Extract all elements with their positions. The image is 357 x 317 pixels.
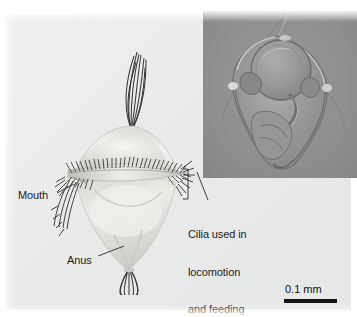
plate-fade-bottom	[0, 305, 357, 317]
anus-leader-line	[98, 246, 124, 256]
leader-lines	[0, 0, 357, 317]
mouth-leader-line	[57, 184, 74, 193]
scale-bar: 0.1 mm	[284, 283, 340, 303]
label-cilia-caption: Cilia used in locomotion and feeding	[188, 203, 247, 317]
label-cilia-line2: locomotion	[188, 266, 247, 279]
cilia-leader-line	[197, 172, 208, 200]
label-anus: Anus	[67, 254, 92, 267]
plate-fade-top	[0, 0, 357, 22]
cilia-bracket	[183, 169, 188, 199]
label-mouth: Mouth	[18, 189, 48, 202]
plate-fade-left	[0, 0, 14, 317]
figure-root: Mouth Anus Cilia used in locomotion and …	[0, 0, 357, 317]
scale-bar-rule	[284, 299, 337, 303]
scale-bar-label: 0.1 mm	[284, 283, 340, 296]
label-cilia-line1: Cilia used in	[188, 228, 247, 241]
